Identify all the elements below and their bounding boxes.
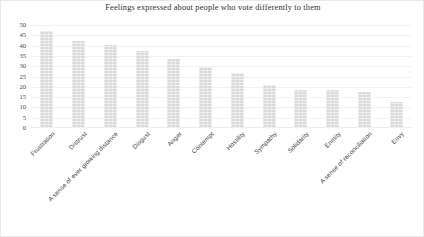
bar — [358, 92, 371, 128]
bar — [294, 90, 307, 128]
x-axis-tick-label: Distrust — [67, 130, 88, 151]
bar — [263, 85, 276, 128]
y-axis: 05101520253035404550 — [1, 25, 29, 128]
x-axis-tick-label: Anger — [166, 130, 183, 147]
bar-chart: Feelings expressed about people who vote… — [0, 0, 424, 237]
y-axis-tick-label: 40 — [19, 42, 26, 49]
bar — [390, 102, 403, 128]
y-axis-tick-label: 50 — [19, 22, 26, 29]
bar — [136, 51, 149, 128]
x-axis-tick-label: Envy — [390, 130, 405, 145]
bar — [72, 41, 85, 128]
bar — [326, 90, 339, 128]
y-axis-tick-label: 15 — [19, 94, 26, 101]
y-axis-tick-label: 25 — [19, 73, 26, 80]
x-axis-tick-label: A sense of ever growing distance — [47, 130, 120, 203]
x-axis-tick-label: Contempt — [190, 130, 215, 155]
x-axis-tick-label: Sympathy — [253, 130, 278, 155]
chart-title: Feelings expressed about people who vote… — [1, 3, 424, 12]
y-axis-tick-label: 30 — [19, 63, 26, 70]
x-axis-tick-label: Disgust — [131, 130, 151, 150]
x-axis-tick-label: Enmity — [323, 130, 342, 149]
bar — [231, 73, 244, 128]
bar — [167, 59, 180, 128]
x-axis-tick-label: Frustration — [29, 130, 56, 157]
x-axis-tick-label: A sense of reconciliation — [319, 130, 374, 185]
y-axis-tick-label: 5 — [23, 114, 26, 121]
bar — [104, 45, 117, 128]
bar — [199, 67, 212, 128]
bar-series — [31, 25, 412, 128]
x-axis-tick-label: Hostility — [225, 130, 246, 151]
x-axis-labels: FrustrationDistrustA sense of ever growi… — [31, 130, 412, 235]
y-axis-tick-label: 20 — [19, 84, 26, 91]
y-axis-tick-label: 45 — [19, 32, 26, 39]
y-axis-tick-label: 10 — [19, 104, 26, 111]
y-axis-tick-label: 35 — [19, 53, 26, 60]
y-axis-tick-label: 0 — [23, 125, 26, 132]
x-axis-tick-label: Solidarity — [286, 130, 310, 154]
bar — [40, 31, 53, 128]
